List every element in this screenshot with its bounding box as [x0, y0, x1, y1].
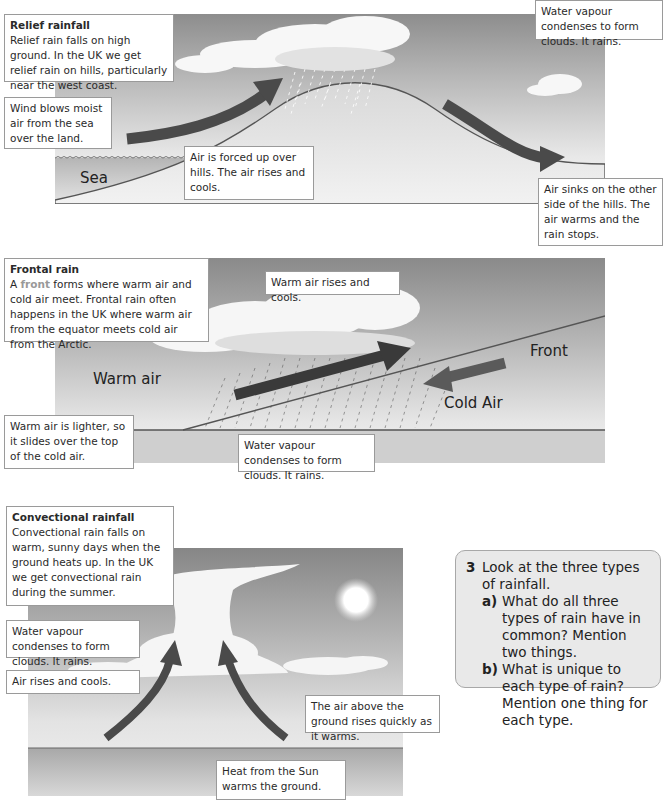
conv-rise-note-text: Air rises and cools.: [12, 675, 111, 687]
question-part-b: b) What is unique to each type of rain? …: [482, 661, 652, 729]
question-part-a: a) What do all three types of rain have …: [482, 593, 652, 661]
convectional-intro-box: Convectional rainfall Convectional rain …: [6, 506, 174, 606]
question-stem-row: 3 Look at the three types of rainfall.: [466, 559, 652, 593]
convectional-intro-text: Convectional rain falls on warm, sunny d…: [12, 526, 160, 598]
sink-note-box: Air sinks on the other side of the hills…: [538, 178, 663, 246]
frontal-intro-pre: A: [10, 278, 21, 290]
frontal-title: Frontal rain: [10, 262, 203, 277]
wind-note-text: Wind blows moist air from the sea over t…: [10, 102, 102, 144]
part-b-text: What is unique to each type of rain? Men…: [502, 661, 652, 729]
cloud-shapes: [175, 16, 582, 96]
relief-condense-note-box: Water vapour condenses to form clouds. I…: [535, 0, 663, 40]
convectional-title: Convectional rainfall: [12, 510, 168, 525]
sea-label: Sea: [80, 169, 108, 187]
question-box: 3 Look at the three types of rainfall. a…: [455, 550, 661, 688]
relief-intro-text: Relief rain falls on high ground. In the…: [10, 34, 167, 91]
heat-note-text: Heat from the Sun warms the ground.: [222, 765, 321, 792]
warm-rise-note-box: Warm air rises and cools.: [265, 271, 400, 295]
relief-title: Relief rainfall: [10, 18, 168, 33]
question-number: 3: [466, 559, 482, 593]
cold-air-label: Cold Air: [444, 394, 503, 412]
lighter-note-text: Warm air is lighter, so it slides over t…: [10, 420, 125, 462]
air-above-note-box: The air above the ground rises quickly a…: [305, 695, 440, 733]
hill-shape: [55, 83, 605, 204]
forced-up-note-box: Air is forced up over hills. The air ris…: [184, 146, 314, 200]
forced-up-note-text: Air is forced up over hills. The air ris…: [190, 151, 305, 193]
relief-condense-note-text: Water vapour condenses to form clouds. I…: [541, 5, 639, 47]
part-a-text: What do all three types of rain have in …: [502, 593, 652, 661]
part-a-letter: a): [482, 593, 502, 661]
lighter-note-box: Warm air is lighter, so it slides over t…: [4, 415, 134, 469]
conv-rise-note-box: Air rises and cools.: [6, 670, 140, 694]
heat-note-box: Heat from the Sun warms the ground.: [216, 760, 346, 800]
wind-note-box: Wind blows moist air from the sea over t…: [4, 97, 112, 149]
frontal-intro-box: Frontal rain A front forms where warm ai…: [4, 258, 209, 342]
question-stem: Look at the three types of rainfall.: [482, 559, 652, 593]
relief-intro-box: Relief rainfall Relief rain falls on hig…: [4, 14, 174, 82]
frontal-condense-note-box: Water vapour condenses to form clouds. I…: [238, 434, 375, 472]
warm-air-arrow: [235, 355, 385, 395]
conv-condense-note-box: Water vapour condenses to form clouds. I…: [6, 620, 140, 658]
frontal-condense-note-text: Water vapour condenses to form clouds. I…: [244, 439, 342, 481]
part-b-letter: b): [482, 661, 502, 729]
sink-note-text: Air sinks on the other side of the hills…: [544, 183, 657, 240]
front-label: Front: [530, 342, 568, 360]
cold-air-arrow: [445, 363, 505, 378]
sun-shape: [334, 578, 378, 622]
warm-air-label: Warm air: [93, 370, 161, 388]
front-keyword: front: [21, 278, 50, 290]
